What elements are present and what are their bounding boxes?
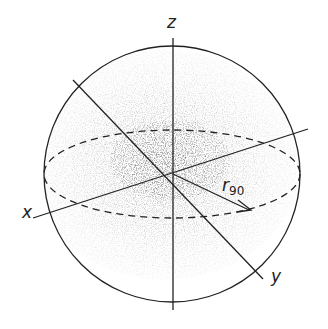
- x-axis-label: x: [22, 204, 32, 221]
- y-axis-label: y: [271, 268, 281, 285]
- r90-label: r90: [222, 177, 244, 197]
- r90-main: r: [222, 175, 229, 195]
- z-axis-label: z: [167, 14, 176, 31]
- sphere-diagram: z x y r90: [0, 0, 328, 329]
- particle-cloud: [30, 50, 300, 280]
- r90-subscript: 90: [229, 184, 244, 198]
